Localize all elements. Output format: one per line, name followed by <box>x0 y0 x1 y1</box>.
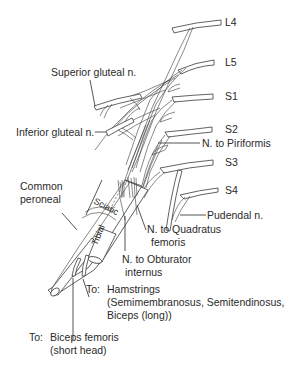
label-biceps-to: To: <box>29 331 43 343</box>
label-superior-gluteal: Superior gluteal n. <box>51 66 136 78</box>
label-l4: L4 <box>225 16 237 28</box>
label-hamstrings-2: (Semimembranosus, Semitendinosus, <box>107 296 284 308</box>
label-hamstrings-1: Hamstrings <box>107 283 160 295</box>
sacral-plexus-diagram: L4 L5 S1 S2 S3 S4 Superior gluteal n. In… <box>0 0 286 367</box>
label-hamstrings-to: To: <box>86 283 100 295</box>
root-l5-nerve <box>126 60 214 168</box>
label-obturator-1: N. to Obturator <box>122 253 192 265</box>
label-piriformis: N. to Piriformis <box>202 137 271 149</box>
label-s4: S4 <box>225 184 238 196</box>
label-s3: S3 <box>225 156 238 168</box>
label-common-peroneal-1: Common <box>20 180 63 192</box>
superior-gluteal-nerve <box>94 94 142 118</box>
label-s1: S1 <box>225 90 238 102</box>
label-biceps-2: (short head) <box>50 344 107 356</box>
label-inferior-gluteal: Inferior gluteal n. <box>16 126 94 138</box>
inferior-gluteal-nerve <box>106 108 140 140</box>
label-common-peroneal-2: peroneal <box>20 193 61 205</box>
label-quadratus-1: N. to Quadratus <box>147 223 221 235</box>
label-pudendal: Pudendal n. <box>207 209 263 221</box>
label-l5: L5 <box>225 56 237 68</box>
label-hamstrings-3: Biceps (long)) <box>107 309 172 321</box>
root-s4-nerve <box>180 188 218 199</box>
pudendal-nerve <box>166 170 190 231</box>
label-biceps-1: Biceps femoris <box>50 331 119 343</box>
label-s2: S2 <box>225 123 238 135</box>
label-quadratus-2: femoris <box>151 236 185 248</box>
label-obturator-2: internus <box>125 266 162 278</box>
